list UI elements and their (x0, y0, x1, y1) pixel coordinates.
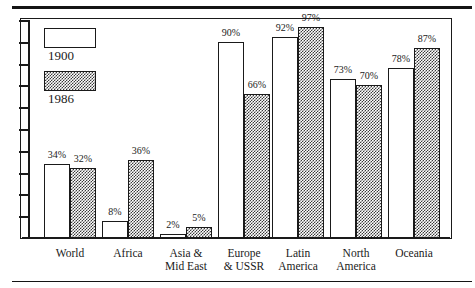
bar-value-label: 34% (48, 150, 66, 160)
bar-1986: 36% (128, 160, 154, 238)
bar-1986: 97% (298, 27, 324, 238)
y-axis-tick (19, 173, 30, 175)
x-axis-label: Oceania (373, 247, 455, 260)
y-axis-tick (19, 129, 30, 131)
bar-1900: 8% (102, 221, 128, 238)
bar-1986: 66% (244, 94, 270, 238)
bar-1900: 34% (44, 164, 70, 238)
bar-1900: 90% (218, 42, 244, 238)
bar-value-label: 73% (334, 65, 352, 75)
bar-value-label: 70% (360, 71, 378, 81)
bar-value-label: 92% (276, 23, 294, 33)
y-axis-tick (19, 20, 30, 22)
y-axis-tick (19, 85, 30, 87)
bar-1900: 73% (330, 79, 356, 238)
bar-value-label: 66% (248, 80, 266, 90)
bar-group: 78%87% (388, 20, 440, 238)
bar-value-label: 5% (192, 213, 205, 223)
y-axis-tick (19, 151, 30, 153)
bar-value-label: 8% (108, 207, 121, 217)
bar-group: 73%70% (330, 20, 382, 238)
y-axis-tick (19, 42, 30, 44)
bar-group: 90%66% (218, 20, 270, 238)
bar-group: 34%32% (44, 20, 96, 238)
bar-1900: 78% (388, 68, 414, 238)
y-axis-tick (19, 194, 30, 196)
bar-group: 2%5% (160, 20, 212, 238)
bar-value-label: 36% (132, 146, 150, 156)
bar-value-label: 78% (392, 54, 410, 64)
bar-1986: 70% (356, 85, 382, 238)
bar-value-label: 2% (166, 220, 179, 230)
bar-1986: 32% (70, 168, 96, 238)
bar-group: 8%36% (102, 20, 154, 238)
bar-value-label: 32% (74, 154, 92, 164)
bar-value-label: 97% (302, 13, 320, 23)
top-rule (12, 6, 472, 9)
bar-1900: 2% (160, 234, 186, 238)
bar-value-label: 87% (418, 34, 436, 44)
bar-value-label: 90% (222, 28, 240, 38)
bar-1986: 5% (186, 227, 212, 238)
bottom-rule (12, 281, 472, 282)
y-axis-tick (19, 107, 30, 109)
bar-1900: 92% (272, 37, 298, 238)
y-axis-tick (19, 216, 30, 218)
bar-group: 92%97% (272, 20, 324, 238)
bar-1986: 87% (414, 48, 440, 238)
y-axis-tick (19, 64, 30, 66)
